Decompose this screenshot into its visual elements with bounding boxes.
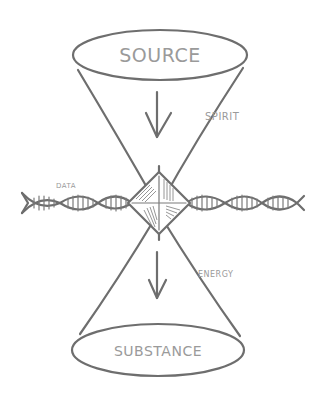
nexus-diamond: [128, 166, 190, 240]
arrow-down-icon: [146, 92, 171, 137]
source-label: SOURCE: [119, 44, 200, 66]
source-node: SOURCE: [73, 30, 247, 80]
spirit-label: SPIRIT: [205, 111, 240, 122]
arrow-down-icon: [149, 252, 166, 298]
substance-label: SUBSTANCE: [114, 343, 202, 359]
substance-node: SUBSTANCE: [72, 324, 244, 376]
data-label: DATA: [56, 182, 76, 190]
energy-label: ENERGY: [198, 270, 233, 279]
hourglass-diagram: SOURCE SUBSTANCE SPIRIT ENERGY: [0, 0, 319, 404]
